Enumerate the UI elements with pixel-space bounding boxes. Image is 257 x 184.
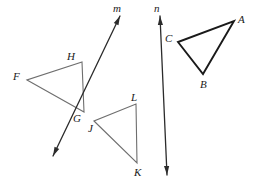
line-m-stroke [53, 16, 120, 156]
figure-canvas [0, 0, 257, 184]
triangle-fgh-shape [27, 62, 84, 112]
triangle-abc-shape [178, 21, 234, 74]
vertex-label-j: J [88, 123, 93, 134]
line-m-group [53, 16, 120, 156]
vertex-label-l: L [131, 92, 137, 103]
lines-group [53, 16, 169, 175]
vertex-label-g: G [73, 113, 81, 124]
vertex-label-h: H [67, 51, 75, 62]
geometry-figure: A B C F G H J K L m n [0, 0, 257, 184]
line-label-m: m [113, 3, 121, 14]
vertex-label-c: C [165, 33, 172, 44]
line-n-arrowhead-top [158, 16, 163, 25]
vertex-label-b: B [200, 79, 207, 90]
vertex-label-k: K [134, 167, 141, 178]
triangle-jkl-shape [94, 104, 137, 163]
line-m-arrowhead-top [114, 16, 120, 25]
line-label-n: n [154, 3, 160, 14]
vertex-label-f: F [13, 71, 20, 82]
line-m-arrowhead-bottom [53, 147, 59, 156]
vertex-label-a: A [238, 14, 245, 25]
line-n-arrowhead-bottom [164, 166, 169, 175]
